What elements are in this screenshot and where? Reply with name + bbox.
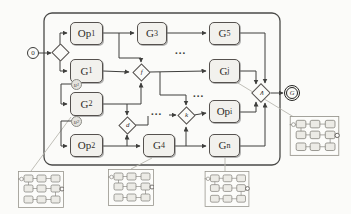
block-opi-subscript: i — [230, 108, 232, 116]
block-g4: G4 — [143, 134, 175, 157]
block-g3-label: G — [146, 28, 154, 39]
block-g3: G3 — [137, 22, 167, 45]
block-op1-subscript: 1 — [91, 30, 95, 38]
sub-diagram-3-graphic — [203, 171, 251, 208]
block-g2: G2 — [70, 92, 103, 116]
block-g4-label: G — [153, 140, 161, 151]
port-u1-subscript: 1 — [77, 82, 80, 87]
output-terminal: G — [284, 85, 300, 101]
ellipsis-top: ... — [175, 45, 186, 56]
block-gj: Gj — [209, 59, 240, 83]
block-g3-subscript: 3 — [154, 30, 158, 38]
input-terminal-label: 0 — [31, 50, 35, 57]
block-g1-subscript: 1 — [88, 67, 92, 75]
block-gn-subscript: n — [226, 142, 230, 150]
block-gn-label: G — [219, 140, 227, 151]
input-terminal: 0 — [27, 47, 39, 59]
sub-diagram-thumbnail-1 — [18, 171, 64, 209]
block-opi: Opi — [209, 100, 240, 123]
junction-d-label: d — [126, 122, 130, 129]
ellipsis-lower: ... — [151, 106, 162, 117]
block-op2-subscript: 2 — [91, 142, 95, 150]
sub-diagram-1-graphic — [18, 171, 64, 209]
block-op1-label: Op — [78, 28, 91, 39]
junction-f-label: f — [141, 69, 143, 76]
port-u1: u1 — [71, 79, 82, 90]
block-g5-label: G — [219, 28, 227, 39]
block-g2-label: G — [81, 99, 89, 110]
sub-diagram-4-graphic — [288, 116, 341, 157]
output-terminal-inner-ring: G — [286, 87, 298, 99]
block-gj-subscript: j — [227, 67, 229, 75]
block-gn: Gn — [209, 134, 240, 157]
port-u2-subscript: 2 — [77, 119, 80, 124]
block-op2-label: Op — [78, 140, 91, 151]
block-diagram-figure: Op1 G3 G5 G1 Gj G2 Opi Op2 G4 Gn f d k ∧ — [0, 0, 351, 214]
junction-k-label: k — [185, 112, 188, 119]
output-terminal-label: G — [290, 90, 295, 97]
port-u2: u2 — [71, 116, 82, 127]
block-op1: Op1 — [70, 22, 103, 45]
sub-diagram-2-graphic — [108, 169, 154, 207]
block-op2: Op2 — [70, 134, 103, 157]
block-g1-label: G — [81, 66, 89, 77]
sub-diagram-thumbnail-3 — [203, 171, 251, 208]
block-g2-subscript: 2 — [88, 100, 92, 108]
sub-diagram-thumbnail-2 — [108, 169, 154, 207]
block-g4-subscript: 4 — [161, 142, 165, 150]
sub-diagram-thumbnail-4 — [288, 116, 341, 157]
block-g5: G5 — [209, 22, 240, 45]
ellipsis-middle: ... — [193, 88, 204, 99]
block-opi-label: Op — [217, 106, 230, 117]
and-junction-label: ∧ — [259, 90, 264, 97]
block-g5-subscript: 5 — [226, 30, 230, 38]
